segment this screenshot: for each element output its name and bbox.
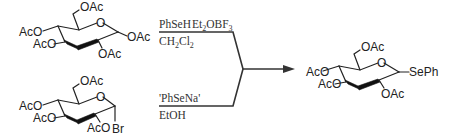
label-c2-oac: OAc [98, 47, 121, 61]
reagent-bf3-etherate: Et2OBF3 [192, 18, 233, 33]
wedge-bond [64, 40, 78, 49]
label-c1-oac: OAc [127, 30, 150, 44]
solvent-dcm: CH2Cl2 [159, 35, 194, 50]
label-c6-oac: OAc [361, 40, 384, 54]
label-c3-aco: AcO [33, 37, 56, 51]
conditions-top: PhSeH Et2OBF3 CH2Cl2 [159, 18, 233, 50]
label-c2-oac: OAc [381, 87, 404, 101]
label-c1-seph: SePh [409, 65, 438, 79]
label-c2-aco: AcO [87, 121, 110, 135]
label-ring-o: O [96, 16, 105, 30]
wedge-bond [64, 114, 78, 123]
reagent-phsena: 'PhSeNa' [159, 92, 200, 104]
reactant-top-molecule: OAc O AcO AcO OAc OAc [19, 0, 150, 61]
label-ring-o: O [377, 56, 386, 70]
solvent-etoh: EtOH [159, 109, 186, 121]
label-c6-oac: OAc [80, 74, 103, 88]
arrowhead-icon [283, 65, 295, 73]
product-molecule: OAc O AcO AcO SePh OAc [306, 40, 438, 101]
reactant-bottom-molecule: OAc O AcO AcO AcO Br [19, 74, 124, 136]
label-c3-aco: AcO [318, 77, 341, 91]
bold-bond [77, 39, 99, 50]
reaction-scheme: OAc O AcO AcO OAc OAc OAc O AcO AcO AcO … [0, 0, 454, 138]
reagent-phseh: PhSeH [159, 18, 191, 30]
label-ring-o: O [96, 90, 105, 104]
label-c3-aco: AcO [33, 111, 56, 125]
bold-bond [358, 79, 380, 90]
wedge-bond [345, 80, 359, 89]
label-c6-oac: OAc [80, 0, 103, 14]
label-c1-br: Br [112, 122, 124, 136]
